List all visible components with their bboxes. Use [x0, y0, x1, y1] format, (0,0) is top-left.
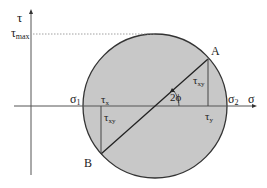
point-a-label: A [211, 44, 220, 58]
point-b-label: B [84, 156, 92, 170]
sigma-axis-label: σ [248, 92, 255, 106]
tau-axis-arrow-icon [29, 9, 33, 14]
mohr-circle-diagram: τ τmax σ1 τx τxy A B τxy 2ϕ σ2 σ τy [0, 0, 267, 188]
sigma1-label: σ1 [70, 92, 80, 107]
angle-label: 2ϕ [170, 91, 182, 103]
sigma2-label: σ2 [228, 92, 238, 107]
tau-max-label: τmax [11, 26, 30, 41]
tau-axis-label: τ [17, 10, 22, 25]
